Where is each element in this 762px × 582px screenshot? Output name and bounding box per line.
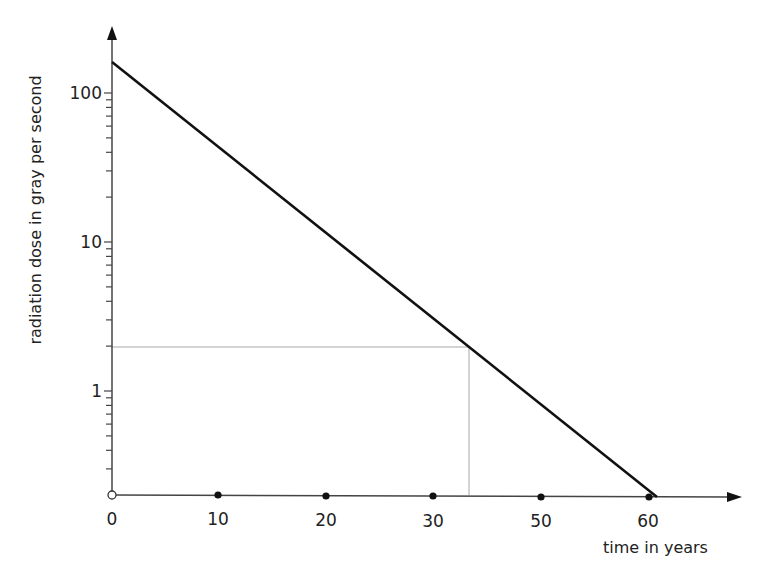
y-axis-ticks <box>104 93 112 469</box>
x-tick-label-30: 30 <box>422 511 444 531</box>
x-tick-dot-50 <box>537 493 544 500</box>
radiation-decay-chart: 100 10 1 radiation dose in gray per seco… <box>0 0 762 582</box>
y-tick-label-10: 10 <box>80 232 102 252</box>
x-axis-arrow-icon <box>727 492 742 502</box>
x-tick-label-50: 50 <box>530 511 552 531</box>
x-tick-dot-20 <box>322 492 329 499</box>
x-tick-dot-10 <box>214 491 221 498</box>
y-tick-label-1: 1 <box>91 381 102 401</box>
x-tick-label-10: 10 <box>207 509 229 529</box>
origin-open-circle-marker <box>108 491 116 499</box>
x-tick-dot-30 <box>429 492 436 499</box>
x-tick-label-20: 20 <box>315 510 337 530</box>
x-tick-label-60: 60 <box>637 511 659 531</box>
guide-lines <box>112 347 469 495</box>
y-tick-label-100: 100 <box>70 83 102 103</box>
dose-decay-line <box>112 62 657 497</box>
y-axis: 100 10 1 radiation dose in gray per seco… <box>26 26 117 495</box>
x-axis-title: time in years <box>603 538 708 557</box>
y-axis-title: radiation dose in gray per second <box>26 75 45 344</box>
x-tick-label-0: 0 <box>107 509 118 529</box>
x-tick-dot-60 <box>645 493 652 500</box>
x-axis: 0 10 20 30 50 60 time in years <box>107 491 742 557</box>
y-axis-arrow-icon <box>107 26 117 40</box>
